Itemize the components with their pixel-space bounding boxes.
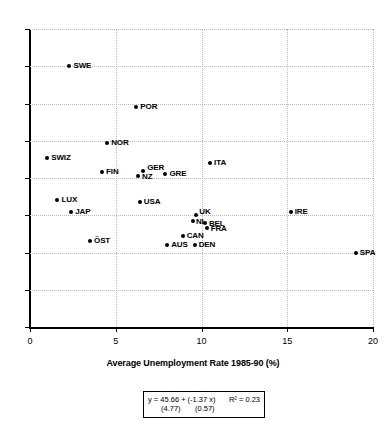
gridline-vertical xyxy=(202,29,203,327)
data-point-label: ITA xyxy=(214,159,226,167)
data-point-marker xyxy=(69,210,73,214)
data-point-label: GER xyxy=(147,164,164,172)
plot-area: 01020304050607080 05101520 SWEPORNORSWIZ… xyxy=(30,29,373,327)
data-point-marker xyxy=(88,239,92,243)
tick-label-x: 0 xyxy=(15,337,45,346)
data-point-label: LUX xyxy=(61,196,77,204)
data-point-label: IRE xyxy=(295,208,308,216)
data-point-marker xyxy=(203,221,207,225)
gridline-vertical xyxy=(287,29,288,327)
data-point-label: POR xyxy=(140,103,157,111)
data-point-marker xyxy=(134,105,138,109)
data-point-marker xyxy=(45,156,49,160)
data-point-marker xyxy=(55,198,59,202)
data-point-marker xyxy=(191,219,195,223)
tick-mark-x xyxy=(116,327,117,332)
tick-mark-y xyxy=(25,29,30,30)
data-point-marker xyxy=(100,170,104,174)
tick-label-x: 5 xyxy=(101,337,131,346)
data-point-marker xyxy=(163,172,167,176)
tick-mark-y xyxy=(25,253,30,254)
tick-label-x: 10 xyxy=(187,337,217,346)
data-point-marker xyxy=(205,226,209,230)
data-point-marker xyxy=(289,210,293,214)
data-point-label: AUS xyxy=(171,241,188,249)
tick-mark-y xyxy=(25,104,30,105)
data-point-label: USA xyxy=(144,198,161,206)
data-point-label: NZ xyxy=(142,173,152,181)
chart-title xyxy=(0,0,386,2)
data-point-marker xyxy=(67,64,71,68)
data-point-marker xyxy=(165,243,169,247)
data-point-label: SWIZ xyxy=(51,154,71,162)
regression-se-intercept: (4.77) xyxy=(161,404,195,413)
tick-mark-y xyxy=(25,141,30,142)
tick-mark-x xyxy=(287,327,288,332)
tick-mark-y xyxy=(25,215,30,216)
data-point-marker xyxy=(181,234,185,238)
regression-annotation-box: y = 45.66 + (-1.37 x) R² = 0.23 (4.77)(0… xyxy=(143,391,265,418)
data-point-label: CAN xyxy=(187,232,204,240)
tick-label-x: 15 xyxy=(272,337,302,346)
data-point-marker xyxy=(354,251,358,255)
gridline-vertical xyxy=(373,29,374,327)
x-axis-title: Average Unemployment Rate 1985-90 (%) xyxy=(0,358,386,368)
data-point-label: DEN xyxy=(199,241,216,249)
tick-mark-x xyxy=(30,327,31,332)
data-point-label: UK xyxy=(199,208,210,216)
data-point-label: GRE xyxy=(169,170,186,178)
data-point-marker xyxy=(105,141,109,145)
data-point-label: NOR xyxy=(111,139,128,147)
regression-equation: y = 45.66 + (-1.37 x) xyxy=(148,395,216,404)
tick-mark-x xyxy=(202,327,203,332)
tick-mark-y xyxy=(25,178,30,179)
data-point-marker xyxy=(138,200,142,204)
tick-mark-x xyxy=(373,327,374,332)
data-point-label: ÖST xyxy=(94,237,110,245)
data-point-marker xyxy=(141,169,145,173)
regression-r-squared: R² = 0.23 xyxy=(229,395,260,404)
regression-standard-errors-line: (4.77)(0.57) xyxy=(148,404,260,413)
regression-equation-line: y = 45.66 + (-1.37 x) R² = 0.23 xyxy=(148,395,260,404)
data-point-label: SWE xyxy=(73,62,91,70)
gridline-vertical xyxy=(116,29,117,327)
tick-mark-y xyxy=(25,290,30,291)
regression-se-slope: (0.57) xyxy=(195,404,215,413)
data-point-label: FIN xyxy=(106,168,119,176)
tick-mark-y xyxy=(25,66,30,67)
data-point-marker xyxy=(193,243,197,247)
data-point-label: FRA xyxy=(211,225,227,233)
tick-label-x: 20 xyxy=(358,337,386,346)
data-point-marker xyxy=(208,161,212,165)
data-point-label: JAP xyxy=(75,208,90,216)
data-point-label: SPA xyxy=(360,249,376,257)
